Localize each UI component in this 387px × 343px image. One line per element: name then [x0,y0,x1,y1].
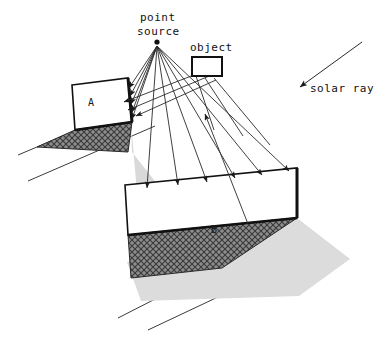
ray-to-b [157,46,178,185]
object-label: object [190,41,233,54]
object-edge-rays [196,76,270,145]
solar-ray-line [300,42,362,87]
object-ray [136,80,216,116]
solar-ray-label: solar ray [310,82,374,95]
object-rect [192,57,222,76]
point-source-dot [154,39,159,44]
object-edge-ray [196,76,214,130]
object-edge-ray [205,78,243,136]
diagram-canvas: A B [0,0,387,343]
panel-b-label: B [211,224,217,235]
point-source-label-line1: point [140,11,176,24]
panel-a-label: A [88,97,94,108]
optics-shadow-diagram: A B [0,0,387,343]
ray-to-a [130,46,157,96]
point-source-label-line2: source [137,25,180,38]
